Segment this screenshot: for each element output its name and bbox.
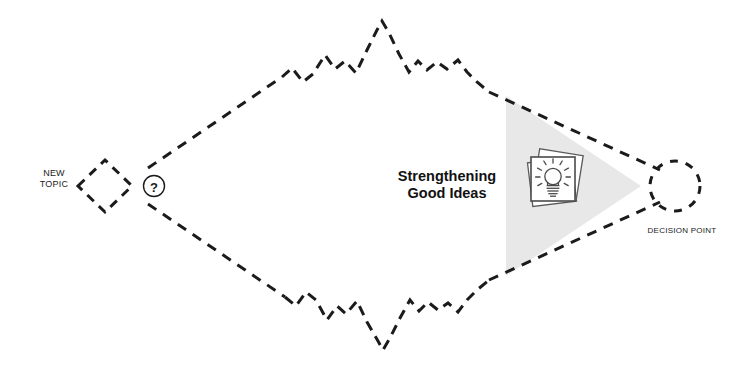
- page-title: Strengthening Good Ideas: [388, 168, 506, 202]
- lower-exploration-path: [285, 280, 489, 350]
- decision-point-label: DECISION POINT: [636, 226, 728, 235]
- new-topic-label: NEW TOPIC: [28, 168, 80, 189]
- idea-funnel-diagram: ?: [0, 0, 736, 368]
- upper-exploration-path: [282, 21, 489, 92]
- icon-bulb-glass: [545, 168, 561, 184]
- diagram-canvas: ?: [0, 0, 736, 368]
- lower-divergence-path: [148, 204, 285, 297]
- question-node[interactable]: ?: [144, 176, 165, 197]
- question-mark-icon: ?: [150, 180, 158, 195]
- new-topic-node[interactable]: [78, 160, 132, 212]
- lightbulb-cards-icon: [527, 149, 583, 207]
- upper-divergence-path: [148, 77, 282, 168]
